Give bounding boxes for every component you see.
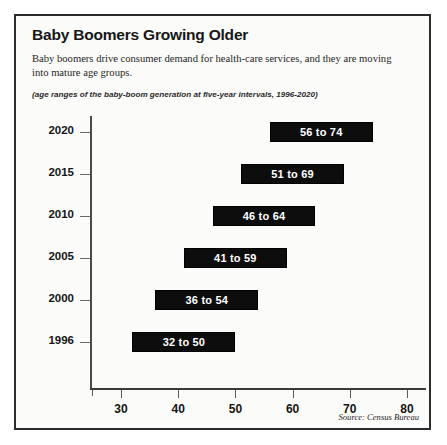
- bar-2015: 51 to 69: [241, 164, 344, 184]
- x-axis-tick: [235, 390, 236, 398]
- x-axis-tick: [407, 390, 408, 398]
- bar-value-label: 41 to 59: [214, 252, 257, 264]
- x-axis-line: [90, 388, 426, 390]
- y-axis-label-2015: 2015: [16, 166, 74, 178]
- bar-value-label: 56 to 74: [300, 126, 343, 138]
- chart-title: Baby Boomers Growing Older: [32, 26, 248, 44]
- bar-2010: 46 to 64: [213, 206, 316, 226]
- x-axis-label-40: 40: [158, 402, 198, 416]
- x-axis-tick: [350, 390, 351, 398]
- y-axis-label-2010: 2010: [16, 208, 74, 220]
- y-axis-tick: [80, 132, 90, 133]
- x-axis-tick: [293, 390, 294, 398]
- bar-2005: 41 to 59: [184, 248, 287, 268]
- x-axis-tick: [121, 390, 122, 398]
- y-axis-line: [90, 116, 92, 388]
- plot-area: 202056 to 74201551 to 69201046 to 642005…: [16, 112, 429, 402]
- source-note: Source: Census Bureau: [338, 412, 419, 422]
- chart-subtitle: Baby boomers drive consumer demand for h…: [32, 52, 404, 80]
- y-axis-tick: [80, 216, 90, 217]
- y-axis-tick: [80, 342, 90, 343]
- y-axis-label-1996: 1996: [16, 334, 74, 346]
- x-axis-origin-tick: [92, 390, 93, 396]
- y-axis-label-2020: 2020: [16, 124, 74, 136]
- y-axis-tick: [80, 258, 90, 259]
- bar-value-label: 36 to 54: [186, 294, 229, 306]
- bar-value-label: 51 to 69: [271, 168, 314, 180]
- x-axis-label-60: 60: [273, 402, 313, 416]
- y-axis-tick: [80, 300, 90, 301]
- y-axis-label-2005: 2005: [16, 250, 74, 262]
- x-axis-tick: [178, 390, 179, 398]
- chart-note: (age ranges of the baby-boom generation …: [32, 90, 318, 99]
- bar-2020: 56 to 74: [270, 122, 373, 142]
- chart-figure: Baby Boomers Growing Older Baby boomers …: [14, 14, 431, 430]
- bar-value-label: 46 to 64: [243, 210, 286, 222]
- y-axis-label-2000: 2000: [16, 292, 74, 304]
- bar-value-label: 32 to 50: [163, 336, 206, 348]
- x-axis-label-50: 50: [215, 402, 255, 416]
- bar-2000: 36 to 54: [155, 290, 258, 310]
- bar-1996: 32 to 50: [132, 332, 235, 352]
- y-axis-tick: [80, 174, 90, 175]
- x-axis-label-30: 30: [101, 402, 141, 416]
